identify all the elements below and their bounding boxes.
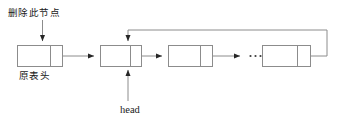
- diagram-vector-layer: [0, 0, 340, 124]
- delete-node-label: 删除此节点: [8, 8, 60, 18]
- node-removed: [18, 46, 63, 67]
- ellipsis-dots: [249, 55, 261, 57]
- linked-list-diagram: 删除此节点 原表头 head: [0, 0, 340, 124]
- node-last: [263, 46, 311, 67]
- node-head: [101, 46, 142, 67]
- node-third: [169, 46, 213, 67]
- head-pointer-label: head: [120, 105, 140, 116]
- old-list-head-label: 原表头: [19, 71, 50, 81]
